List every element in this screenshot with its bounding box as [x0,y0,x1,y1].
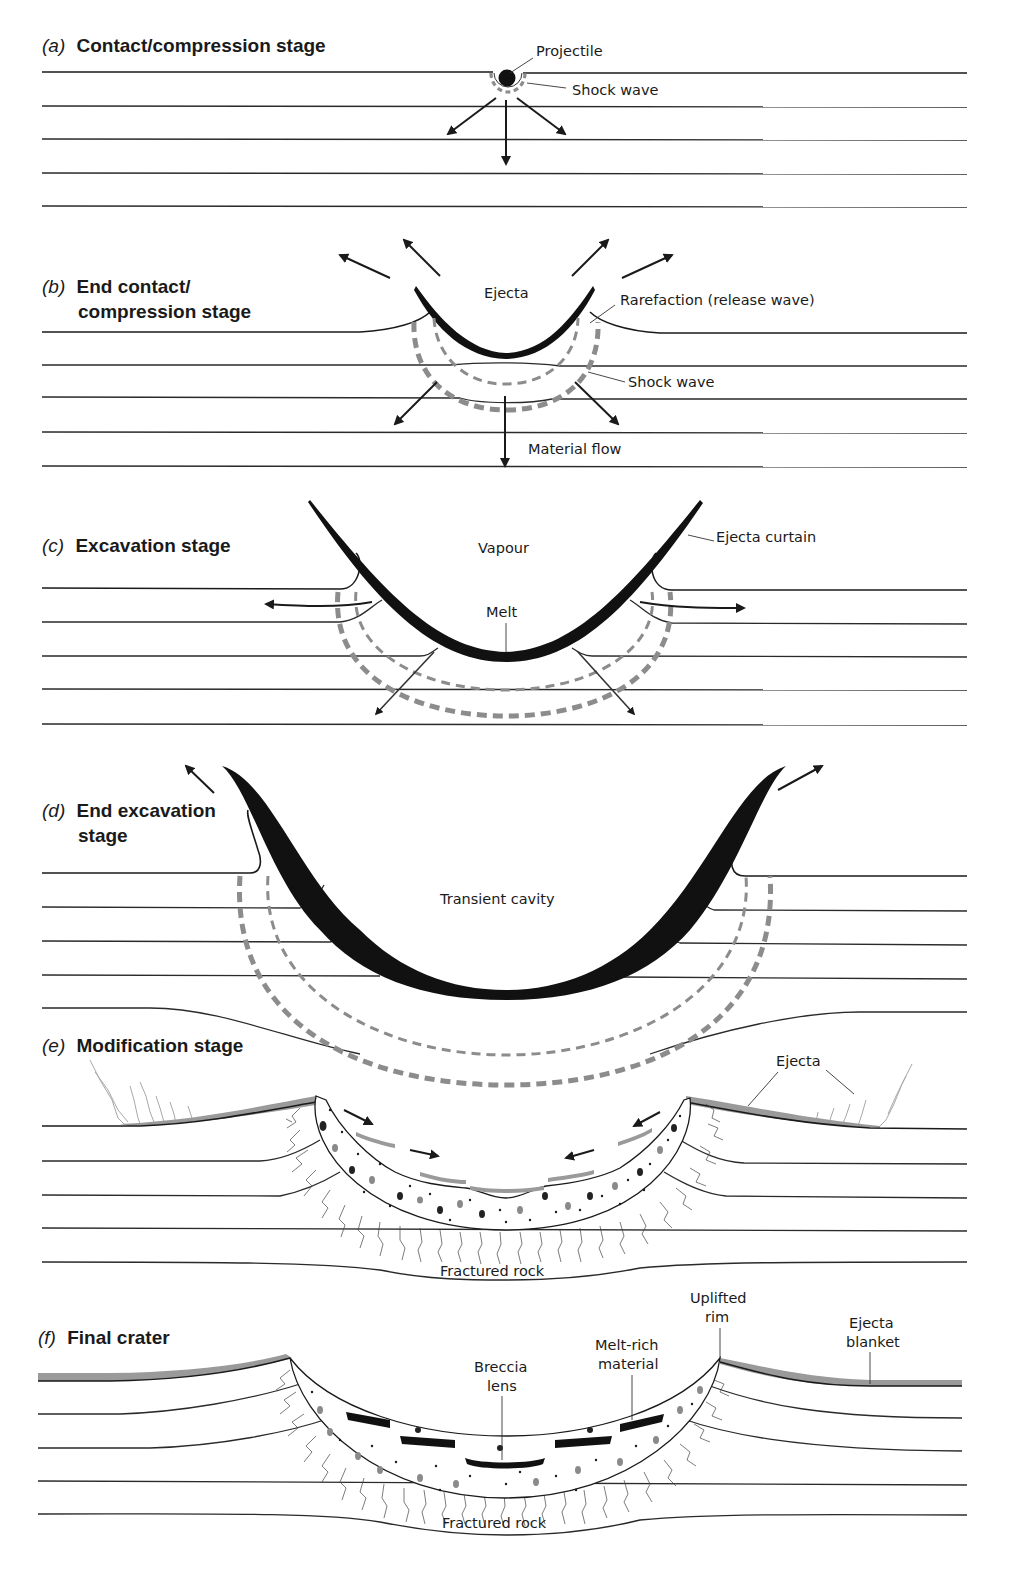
label-rarefaction: Rarefaction (release wave) [620,292,815,308]
label-shock-wave: Shock wave [572,82,659,98]
slump-arrow-icon [344,1110,372,1124]
arrow-up-left-icon [404,240,440,276]
leader-line [688,535,714,541]
arrow-down-right-icon [575,382,618,424]
label-melt-rich-line2: material [598,1356,659,1372]
label-ejecta-blanket-line2: blanket [846,1334,900,1350]
arrow-up-left-icon [186,766,214,793]
leader-line [588,372,625,382]
stratum-line [42,173,967,174]
label-melt-rich-line1: Melt-rich [595,1337,659,1353]
panel-b-title: (b) End contact/ [42,276,191,297]
label-breccia-lens-line2: lens [487,1378,517,1394]
stratum-line [42,139,967,140]
label-projectile: Projectile [536,43,603,59]
stratum-line [42,106,967,107]
label-ejecta-curtain: Ejecta curtain [716,529,816,545]
label-ejecta: Ejecta [484,285,529,301]
label-ejecta-blanket-line1: Ejecta [849,1315,894,1331]
fractured-rock-zone [286,1104,723,1264]
panel-d-title: (d) End excavation [42,800,216,821]
stratum-line [42,206,967,207]
ground-surface [42,553,967,590]
projectile-icon [499,70,516,87]
panel-d-title-line2: stage [78,825,128,846]
panel-c-title: (c) Excavation stage [42,535,231,556]
label-breccia-lens-line1: Breccia [474,1359,527,1375]
stratum-line [42,363,967,366]
arrow-left-icon [266,602,372,606]
panel-a-title: (a) Contact/compression stage [42,35,326,56]
arrow-down-left-icon [376,652,434,714]
label-melt: Melt [486,604,517,620]
arrow-up-right-icon [622,255,672,278]
stratum-line [42,928,967,945]
stratum-line [42,724,967,725]
label-vapour: Vapour [478,540,529,556]
stratum-line [42,975,967,979]
panel-b: (b) End contact/ compression stage Eject… [42,240,967,467]
shock-wave-inner [434,318,578,384]
panel-e-title: (e) Modification stage [42,1035,243,1056]
ground-surface [42,1102,967,1129]
stratum-line [42,466,967,467]
arrow-up-right-icon [778,766,822,790]
arrow-down-right-icon [578,652,634,714]
slump-arrow-icon [634,1112,660,1126]
leader-line [527,83,566,88]
leader-line [748,1070,854,1106]
ejecta-deposit [686,1096,880,1128]
label-uplifted-rim-line1: Uplifted [690,1290,747,1306]
arrow-down-right-icon [517,98,565,134]
label-material-flow: Material flow [528,441,622,457]
arrow-up-right-icon [572,240,608,276]
label-ejecta: Ejecta [776,1053,821,1069]
slump-arrow-icon [410,1150,438,1156]
stratum-line [42,1172,967,1198]
panel-e: (e) Modification stage [42,1035,967,1280]
transient-cavity-lining [222,766,786,1000]
label-fractured-rock: Fractured rock [440,1263,545,1279]
label-uplifted-rim-line2: rim [705,1309,729,1325]
arrow-down-left-icon [448,98,496,134]
panel-a: (a) Contact/compression stage Projectile… [42,35,967,207]
arrow-up-left-icon [340,255,390,278]
panel-f-title: (f) Final crater [38,1327,170,1348]
slump-arrow-icon [566,1150,594,1158]
label-transient-cavity: Transient cavity [439,891,555,907]
panel-c: (c) Excavation stage Vapour Ejecta curta… [42,500,967,725]
breccia-lens [315,1096,690,1230]
arrow-down-left-icon [395,382,437,424]
ejecta-plume-left [90,1060,192,1124]
label-shock-wave: Shock wave [628,374,715,390]
panel-b-title-line2: compression stage [78,301,251,322]
label-fractured-rock: Fractured rock [442,1515,547,1531]
stratum-line [42,1140,967,1164]
arrow-right-icon [640,602,744,608]
leader-line [510,58,533,73]
panel-f: (f) Final crater [38,1290,967,1535]
crater-formation-diagram: (a) Contact/compression stage Projectile… [0,0,1009,1583]
